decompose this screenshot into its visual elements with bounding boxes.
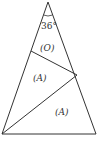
triangle-diagram: 36° (O) (A) (A) (0, 0, 100, 153)
bottom-region-label: (A) (55, 107, 69, 117)
segment-bottomleft-to-right (2, 75, 77, 134)
top-region-label: (O) (40, 43, 55, 53)
middle-region-label: (A) (33, 73, 47, 83)
apex-angle-arc (44, 15, 53, 16)
apex-angle-label: 36° (41, 21, 57, 31)
